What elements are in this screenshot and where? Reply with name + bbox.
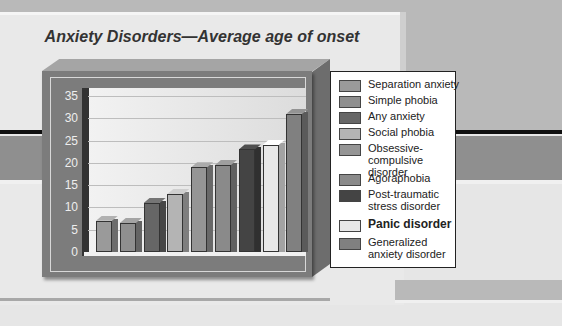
band-right-bottom <box>454 180 562 184</box>
legend-label: Post-traumatic stress disorder <box>368 188 464 212</box>
legend-swatch <box>339 96 361 108</box>
chart-floor <box>84 252 306 256</box>
y-tick-label: 20 <box>54 156 78 170</box>
legend-label: Any anxiety <box>368 110 464 122</box>
chart-title: Anxiety Disorders—Average age of onset <box>0 28 404 46</box>
legend-item: Social phobia <box>339 126 464 140</box>
legend-item: Agoraphobia <box>339 172 464 186</box>
legend-swatch <box>339 144 361 156</box>
band-right-mid <box>454 136 562 180</box>
legend-label: Separation anxiety <box>368 78 464 90</box>
legend-item: Simple phobia <box>339 94 464 108</box>
bar-social-phobia <box>167 189 189 252</box>
bar-simple-phobia <box>120 218 142 252</box>
y-tick-label: 30 <box>54 111 78 125</box>
legend-label: Agoraphobia <box>368 172 464 184</box>
legend-item: Any anxiety <box>339 110 464 124</box>
bar-obsessive-compulsive-disorder <box>191 162 213 252</box>
bar-separation-anxiety <box>96 216 118 252</box>
legend-swatch <box>339 238 361 250</box>
legend-item: Panic disorder <box>339 218 464 232</box>
bar-panic-disorder <box>263 140 285 252</box>
y-axis-wall <box>82 88 89 256</box>
legend-label: Panic disorder <box>368 218 464 230</box>
y-tick-label: 15 <box>54 178 78 192</box>
frame-top <box>42 59 330 71</box>
band-left-mid <box>0 136 42 180</box>
legend-swatch <box>339 128 361 140</box>
legend-label: Simple phobia <box>368 94 464 106</box>
legend: Separation anxietySimple phobiaAny anxie… <box>330 71 456 268</box>
legend-item: Separation anxiety <box>339 78 464 92</box>
band-left-bottom <box>0 180 42 184</box>
y-tick-label: 10 <box>54 200 78 214</box>
y-tick-label: 5 <box>54 223 78 237</box>
bar-any-anxiety <box>144 198 166 252</box>
legend-swatch <box>339 220 361 232</box>
bar-post-traumatic-stress-disorder <box>239 144 261 252</box>
frame-side <box>312 59 330 277</box>
lower-right-block <box>395 280 562 303</box>
legend-label: Generalized anxiety disorder <box>368 236 464 260</box>
legend-label: Social phobia <box>368 126 464 138</box>
lower-divider <box>0 298 330 301</box>
legend-item: Post-traumatic stress disorder <box>339 188 464 212</box>
gridline <box>88 96 306 97</box>
y-tick-label: 25 <box>54 134 78 148</box>
legend-swatch <box>339 174 361 186</box>
legend-swatch <box>339 80 361 92</box>
y-tick-label: 35 <box>54 89 78 103</box>
legend-item: Generalized anxiety disorder <box>339 236 464 260</box>
legend-swatch <box>339 190 361 202</box>
gridline <box>88 118 306 119</box>
legend-swatch <box>339 112 361 124</box>
bar-agoraphobia <box>215 160 237 252</box>
y-tick-label: 0 <box>54 245 78 259</box>
bar-generalized-anxiety-disorder <box>286 109 308 252</box>
